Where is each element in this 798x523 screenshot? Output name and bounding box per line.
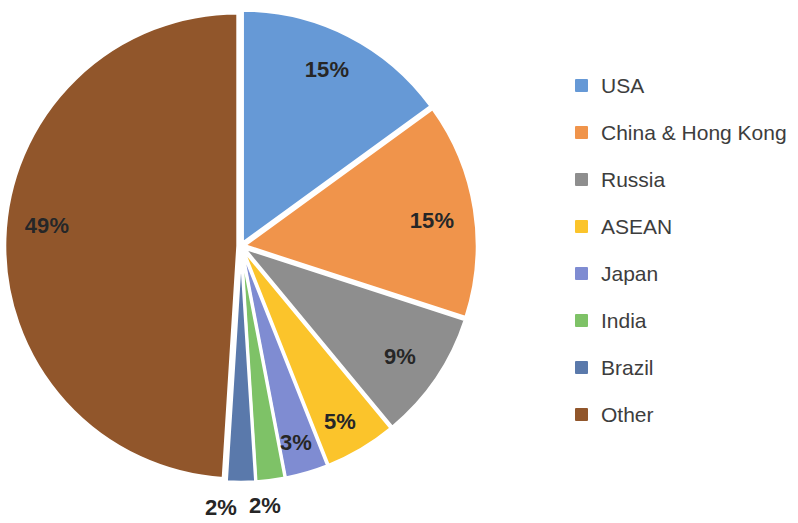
legend-swatch-icon: [575, 314, 588, 327]
pie-slice-data-label: 5%: [324, 409, 356, 435]
pie-slice[interactable]: [5, 13, 238, 479]
legend-item[interactable]: Brazil: [575, 344, 790, 391]
pie-svg: [0, 0, 530, 523]
pie-plot-area: 15%15%9%5%3%2%2%49%: [0, 0, 530, 523]
pie-slice-data-label: 9%: [384, 344, 416, 370]
pie-slice-data-label: 2%: [205, 495, 237, 521]
legend-item[interactable]: China & Hong Kong: [575, 109, 790, 156]
legend-item-label: Japan: [601, 263, 658, 284]
legend-item-label: Other: [601, 404, 654, 425]
legend-swatch-icon: [575, 361, 588, 374]
pie-chart-figure: 15%15%9%5%3%2%2%49% USAChina & Hong Kong…: [0, 0, 798, 523]
pie-slice-data-label: 2%: [249, 493, 281, 519]
legend-item-label: USA: [601, 75, 644, 96]
legend-swatch-icon: [575, 267, 588, 280]
legend-item[interactable]: Other: [575, 391, 790, 438]
legend-item[interactable]: Russia: [575, 156, 790, 203]
legend-item-label: ASEAN: [601, 216, 672, 237]
legend-swatch-icon: [575, 408, 588, 421]
pie-slice-data-label: 15%: [305, 57, 350, 83]
legend-item-label: Russia: [601, 169, 665, 190]
pie-slice-data-label: 3%: [280, 430, 312, 456]
legend-item-label: India: [601, 310, 647, 331]
legend-item-label: China & Hong Kong: [601, 122, 787, 143]
pie-slice-group: [5, 10, 477, 482]
legend-swatch-icon: [575, 220, 588, 233]
legend-swatch-icon: [575, 79, 588, 92]
legend-item[interactable]: ASEAN: [575, 203, 790, 250]
legend-item-label: Brazil: [601, 357, 654, 378]
pie-slice-data-label: 15%: [410, 208, 455, 234]
chart-legend: USAChina & Hong KongRussiaASEANJapanIndi…: [575, 62, 790, 438]
legend-swatch-icon: [575, 126, 588, 139]
pie-slice-data-label: 49%: [25, 213, 70, 239]
legend-item[interactable]: India: [575, 297, 790, 344]
legend-swatch-icon: [575, 173, 588, 186]
legend-item[interactable]: USA: [575, 62, 790, 109]
legend-item[interactable]: Japan: [575, 250, 790, 297]
